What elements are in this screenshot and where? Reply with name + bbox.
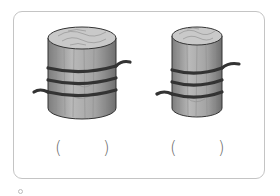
log-thick-icon — [30, 24, 140, 124]
paren-close: ) — [103, 138, 110, 158]
paren-close: ) — [218, 138, 225, 158]
log-thin-icon — [155, 24, 245, 124]
paren-open: ( — [170, 138, 177, 158]
paren-open: ( — [55, 138, 62, 158]
page-marker-icon — [18, 189, 23, 194]
